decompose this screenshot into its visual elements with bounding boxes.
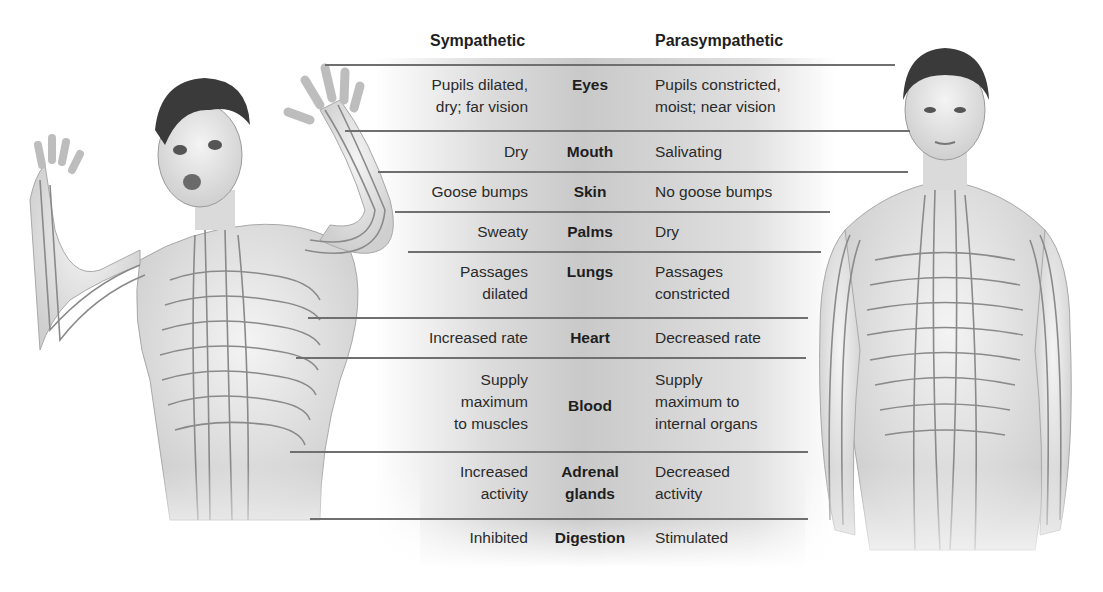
sympathetic-header: Sympathetic: [430, 32, 525, 50]
mouth-sympathetic: Dry: [504, 141, 528, 163]
lungs-parasympathetic: Passages constricted: [655, 261, 730, 305]
digestion-parasympathetic: Stimulated: [655, 527, 728, 549]
parasympathetic-header: Parasympathetic: [655, 32, 783, 50]
skin-parasympathetic: No goose bumps: [655, 181, 772, 203]
skin-sympathetic: Goose bumps: [432, 181, 529, 203]
row-divider: [395, 211, 830, 213]
mouth-organ: Mouth: [540, 141, 640, 163]
adrenal-parasympathetic: Decreased activity: [655, 461, 730, 505]
digestion-organ: Digestion: [540, 527, 640, 549]
palms-parasympathetic: Dry: [655, 221, 679, 243]
palms-sympathetic: Sweaty: [477, 221, 528, 243]
row-divider: [345, 130, 910, 132]
eyes-parasympathetic: Pupils constricted, moist; near vision: [655, 74, 781, 118]
sympathetic-figure-illustration: [20, 50, 420, 570]
heart-sympathetic: Increased rate: [429, 327, 528, 349]
row-divider: [408, 251, 821, 253]
adrenal-sympathetic: Increased activity: [460, 461, 528, 505]
row-divider: [378, 171, 908, 173]
lungs-sympathetic: Passages dilated: [460, 261, 528, 305]
row-divider: [296, 357, 806, 359]
heart-parasympathetic: Decreased rate: [655, 327, 761, 349]
blood-organ: Blood: [540, 395, 640, 417]
eyes-sympathetic: Pupils dilated, dry; far vision: [431, 74, 528, 118]
heart-organ: Heart: [540, 327, 640, 349]
row-divider: [290, 451, 808, 453]
lungs-organ: Lungs: [540, 261, 640, 283]
mouth-parasympathetic: Salivating: [655, 141, 722, 163]
row-divider: [308, 317, 808, 319]
row-divider: [310, 518, 808, 520]
palms-organ: Palms: [540, 221, 640, 243]
eyes-organ: Eyes: [540, 74, 640, 96]
blood-sympathetic: Supply maximum to muscles: [454, 369, 528, 435]
parasympathetic-figure-illustration: [805, 30, 1103, 590]
blood-parasympathetic: Supply maximum to internal organs: [655, 369, 758, 435]
adrenal-organ: Adrenal glands: [540, 461, 640, 505]
skin-organ: Skin: [540, 181, 640, 203]
digestion-sympathetic: Inhibited: [469, 527, 528, 549]
row-divider: [325, 64, 895, 66]
